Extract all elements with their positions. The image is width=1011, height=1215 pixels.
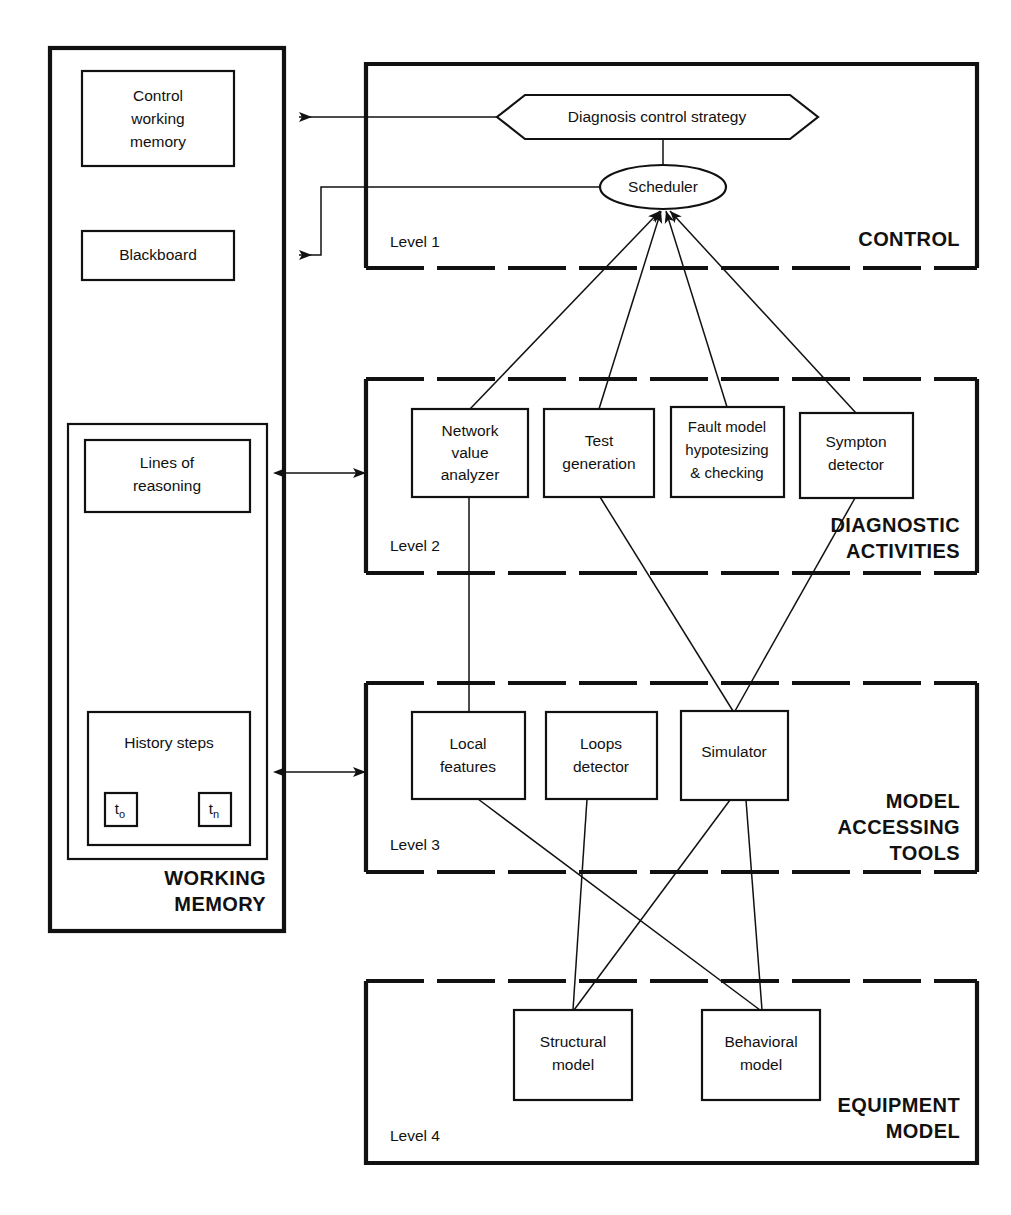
connector-local-features-to-behavioral-model [478,799,760,1010]
t-n-marker: tn [199,793,231,826]
connector-simulator-to-behavioral-model [746,800,762,1010]
connector-scheduler-to-blackboard [299,187,600,255]
t-zero-marker: to [105,793,137,826]
behavioral-model-label-2: model [740,1056,782,1073]
lines-of-reasoning-label-2: reasoning [133,477,201,494]
connector-sympton-detector-to-simulator [735,498,855,711]
control-working-memory-label-1: Control [133,87,183,104]
svg-text:to: to [115,800,125,820]
scheduler-label: Scheduler [628,178,698,195]
diagnosis-control-strategy-node: Diagnosis control strategy [497,95,818,139]
structural-model-label-2: model [552,1056,594,1073]
level-3-model-accessing-tools-section: Local features Loops detector Simulator … [366,683,977,872]
level-4-label: Level 4 [390,1127,440,1144]
fault-model-box: Fault model hypotesizing & checking [671,407,784,497]
loops-detector-label-2: detector [573,758,629,775]
connection-lines [286,117,856,1010]
svg-text:tn: tn [209,800,219,820]
system-architecture-diagram: Control working memory Blackboard Lines … [0,0,1011,1215]
loops-detector-box: Loops detector [546,712,657,799]
blackboard-box: Blackboard [82,231,234,280]
level-1-zone-label: CONTROL [858,228,960,250]
working-memory-zone-label-2: MEMORY [174,893,266,915]
working-memory-zone-label-1: WORKING [164,867,266,889]
lines-of-reasoning-box: Lines of reasoning [85,440,250,512]
scheduler-node: Scheduler [600,165,726,209]
level-4-equipment-model-section: Structural model Behavioral model Level … [366,981,977,1163]
network-value-analyzer-box: Network value analyzer [412,409,528,497]
local-features-label-1: Local [449,735,486,752]
level-1-control-section: Diagnosis control strategy Scheduler Lev… [366,64,977,268]
network-value-analyzer-label-3: analyzer [441,466,500,483]
level-4-zone-label-1: EQUIPMENT [838,1094,961,1116]
fault-model-label-3: & checking [690,464,763,481]
structural-model-box: Structural model [514,1010,632,1100]
sympton-detector-label-1: Sympton [825,433,886,450]
fault-model-label-1: Fault model [688,418,766,435]
level-2-label: Level 2 [390,537,440,554]
working-memory-container: Control working memory Blackboard Lines … [50,48,284,931]
blackboard-label: Blackboard [119,246,197,263]
control-working-memory-label-3: memory [130,133,186,150]
simulator-label: Simulator [701,743,766,760]
level-3-zone-label-2: ACCESSING [837,816,960,838]
fault-model-label-2: hypotesizing [685,441,768,458]
level-2-diagnostic-activities-section: Network value analyzer Test generation F… [366,379,977,573]
level-2-zone-label-1: DIAGNOSTIC [830,514,960,536]
loops-detector-label-1: Loops [580,735,622,752]
connector-test-generation-to-simulator [600,497,733,711]
level-4-zone-label-2: MODEL [886,1120,960,1142]
connector-simulator-to-structural-model [574,800,730,1010]
history-steps-label: History steps [124,734,214,751]
level-3-zone-label-3: TOOLS [889,842,960,864]
level-1-label: Level 1 [390,233,440,250]
test-generation-label-2: generation [562,455,635,472]
test-generation-label-1: Test [585,432,614,449]
level-3-label: Level 3 [390,836,440,853]
sympton-detector-label-2: detector [828,456,884,473]
level-2-zone-label-2: ACTIVITIES [846,540,960,562]
lines-of-reasoning-label-1: Lines of [140,454,195,471]
diagnosis-control-strategy-label: Diagnosis control strategy [568,108,747,125]
behavioral-model-box: Behavioral model [702,1010,820,1100]
control-working-memory-box: Control working memory [82,71,234,166]
network-value-analyzer-label-2: value [451,444,488,461]
behavioral-model-label-1: Behavioral [724,1033,797,1050]
network-value-analyzer-label-1: Network [442,422,499,439]
control-working-memory-label-2: working [130,110,184,127]
level-3-zone-label-1: MODEL [886,790,960,812]
simulator-box: Simulator [681,711,788,800]
local-features-box: Local features [412,712,525,799]
local-features-label-2: features [440,758,496,775]
test-generation-box: Test generation [544,409,654,497]
connector-loops-detector-to-structural-model [573,799,587,1010]
sympton-detector-box: Sympton detector [800,413,913,498]
history-steps-box: History steps to tn [88,712,250,845]
structural-model-label-1: Structural [540,1033,606,1050]
